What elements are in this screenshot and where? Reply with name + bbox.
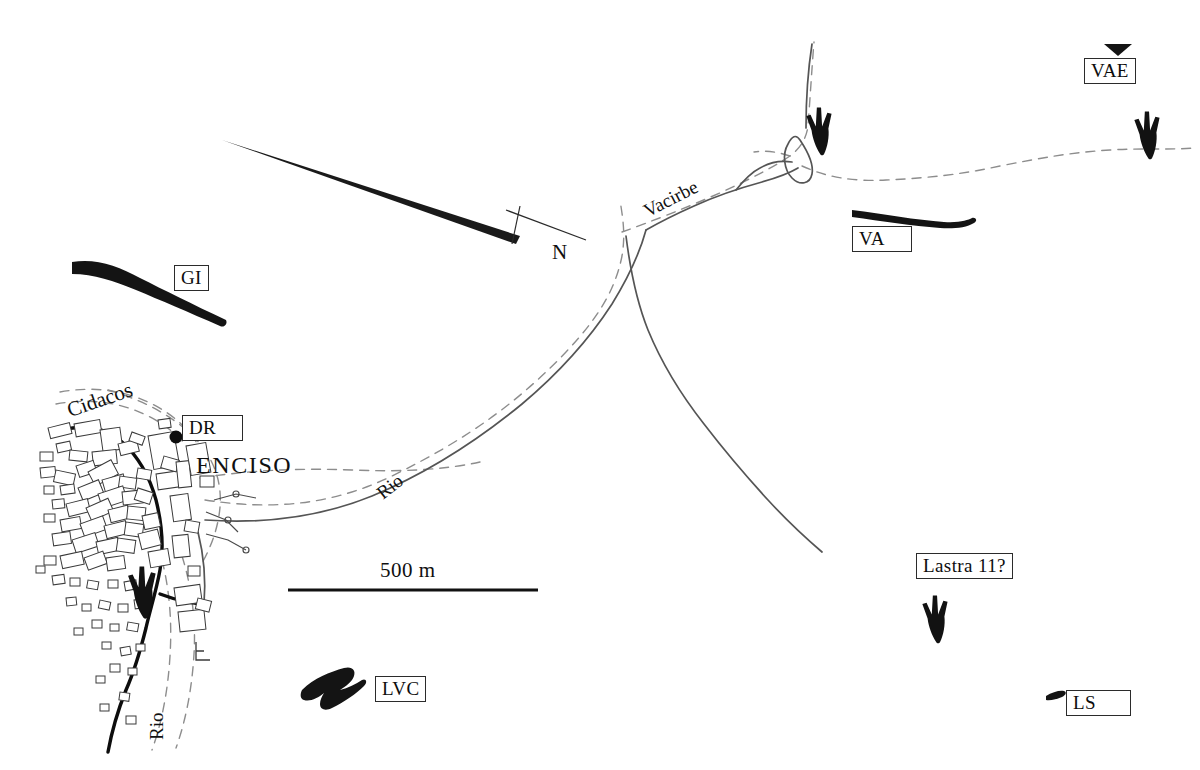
north-arrow bbox=[222, 140, 586, 244]
scale-bar-label: 500 m bbox=[380, 558, 436, 583]
river-south-tributary bbox=[626, 236, 822, 552]
town-connector-tracks bbox=[206, 491, 256, 553]
footprint-icon-east bbox=[1134, 112, 1159, 160]
outcrop-lvc bbox=[301, 667, 366, 709]
footprint-icon-vacirbe bbox=[806, 108, 831, 156]
site-label-lastra-11[interactable]: Lastra 11? bbox=[916, 553, 1013, 579]
site-label-dr[interactable]: DR bbox=[182, 415, 243, 441]
site-label-vae[interactable]: VAE bbox=[1084, 58, 1136, 84]
footprint-icon-lastra bbox=[922, 596, 947, 644]
town-building-footprints bbox=[36, 418, 214, 724]
dashed-road-network bbox=[56, 42, 1196, 750]
outcrop-bands bbox=[72, 44, 1132, 710]
road-east-vacirbe bbox=[802, 148, 1196, 180]
river-vacirbe-lens bbox=[785, 137, 813, 183]
outcrop-ls bbox=[1046, 691, 1066, 701]
site-label-lvc[interactable]: LVC bbox=[375, 676, 426, 702]
dr-point-marker bbox=[170, 431, 183, 444]
site-label-gi[interactable]: GI bbox=[174, 265, 209, 291]
road-south-river-2 bbox=[176, 556, 195, 748]
page-title: ENCISO bbox=[196, 452, 292, 479]
river-label-rio-lower: Rio bbox=[146, 713, 168, 740]
map-symbol-hook bbox=[196, 642, 210, 660]
north-arrow-label: N bbox=[552, 240, 567, 265]
site-label-va[interactable]: VA bbox=[852, 226, 912, 252]
river-network bbox=[198, 44, 822, 604]
marker-vae-triangle bbox=[1104, 44, 1132, 56]
site-label-ls[interactable]: LS bbox=[1066, 690, 1131, 716]
map-linework-layer bbox=[0, 0, 1200, 770]
map-canvas: GI DR VA VAE Lastra 11? LS LVC ENCISO N … bbox=[0, 0, 1200, 770]
